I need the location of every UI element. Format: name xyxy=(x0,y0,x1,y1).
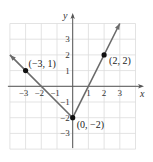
y-tick-label: 1 xyxy=(65,66,70,76)
point-label: (0, −2) xyxy=(77,119,104,131)
x-tick-label: −2 xyxy=(35,88,45,98)
y-axis-label: y xyxy=(62,10,68,21)
data-point xyxy=(70,115,75,120)
y-tick-label: −3 xyxy=(60,128,70,138)
x-tick-label: −3 xyxy=(19,88,29,98)
x-tick-label: 2 xyxy=(102,88,107,98)
x-axis-label: x xyxy=(139,88,145,99)
y-tick-label: 3 xyxy=(65,34,70,44)
data-point xyxy=(102,52,107,57)
data-point xyxy=(23,68,28,73)
y-tick-label: 2 xyxy=(65,50,70,60)
point-label: (−3, 1) xyxy=(29,58,56,70)
line-arrow-icon xyxy=(115,24,120,30)
x-tick-label: 3 xyxy=(118,88,123,98)
point-label: (2, 2) xyxy=(109,55,131,67)
graph-plot: −3−2−1123321−1−2−3 (−3, 1)(2, 2)(0, −2) … xyxy=(0,0,153,162)
